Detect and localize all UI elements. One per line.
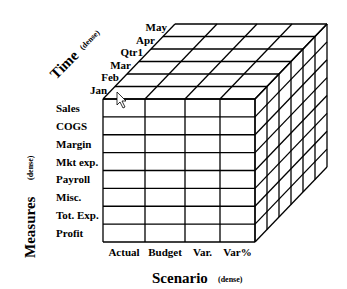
mouse-pointer-icon: [117, 92, 126, 108]
measures-qualifier: (dense): [26, 155, 35, 180]
measure-label: COGS: [56, 120, 87, 132]
time-label: Qtr1: [120, 46, 143, 58]
olap-cube-diagram: JanFebMarQtr1AprMay SalesCOGSMarginMkt e…: [0, 0, 347, 289]
scenario-member-labels: ActualBudgetVar.Var%: [108, 246, 251, 258]
measure-label: Payroll: [56, 173, 90, 185]
scenario-label: Var%: [223, 246, 251, 258]
scenario-label: Budget: [148, 246, 182, 258]
measure-label: Misc.: [56, 191, 82, 203]
scenario-label: Actual: [108, 246, 139, 258]
scenario-axis-title: Scenario (dense): [152, 270, 243, 286]
time-label: Feb: [101, 71, 119, 83]
measure-member-labels: SalesCOGSMarginMkt exp.PayrollMisc.Tot. …: [56, 102, 99, 239]
time-title: Time: [47, 47, 82, 82]
time-label: Mar: [110, 59, 131, 71]
measure-label: Mkt exp.: [56, 156, 98, 168]
cube-canvas: JanFebMarQtr1AprMay SalesCOGSMarginMkt e…: [0, 0, 347, 289]
scenario-qualifier: (dense): [218, 275, 243, 284]
time-member-labels: JanFebMarQtr1AprMay: [90, 21, 168, 96]
measures-axis-title: Measures (dense): [22, 155, 38, 258]
scenario-title: Scenario: [152, 270, 208, 286]
measure-label: Sales: [56, 102, 81, 114]
time-label: Apr: [136, 34, 155, 46]
time-axis-title: Time (dense): [47, 25, 104, 82]
measures-title: Measures: [22, 196, 38, 258]
time-label: Jan: [90, 84, 107, 96]
time-qualifier: (dense): [78, 28, 102, 52]
measure-label: Tot. Exp.: [56, 209, 99, 221]
measure-label: Profit: [56, 227, 84, 239]
measure-label: Margin: [56, 138, 91, 150]
scenario-label: Var.: [193, 246, 212, 258]
time-label: May: [146, 21, 168, 33]
